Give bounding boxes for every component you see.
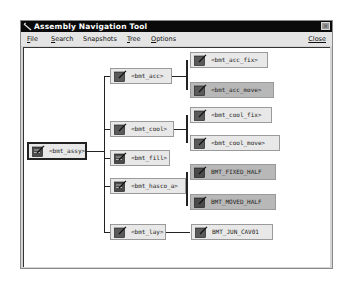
edit-part-icon	[114, 152, 127, 164]
edit-part-icon	[114, 70, 127, 82]
tree-node-bmt-moved-half[interactable]: BMT_MOVED_HALF	[190, 194, 276, 210]
tree-node-bmt-fixed-half[interactable]: BMT_FIXED_HALF	[190, 164, 276, 180]
edit-part-icon	[194, 109, 207, 121]
tree-node-bmt-acc-move[interactable]: <bmt_acc_move>	[190, 82, 274, 98]
tree-node-bmt-lay[interactable]: <bmt_lay>	[110, 224, 166, 240]
menu-snapshots[interactable]: Snapshots	[83, 32, 117, 46]
tree-node-bmt-cool[interactable]: <bmt_cool>	[110, 121, 174, 137]
edit-part-icon	[194, 84, 207, 96]
connector	[172, 76, 186, 77]
edit-part-icon	[194, 166, 207, 178]
connector	[104, 76, 105, 233]
connector	[174, 129, 186, 130]
edit-part-icon	[114, 180, 127, 192]
menu-search[interactable]: Search	[51, 32, 73, 46]
menu-tree[interactable]: Tree	[127, 32, 141, 46]
edit-part-icon	[195, 226, 208, 238]
assembly-navigation-window: Assembly Navigation Tool × File Search S…	[20, 20, 333, 269]
connector	[186, 172, 188, 206]
tree-node-bmt-fill[interactable]: <bmt_fill>	[110, 150, 170, 166]
tree-node-bmt-acc-fix[interactable]: <bmt_acc_fix>	[190, 52, 268, 68]
connector	[85, 151, 104, 152]
menu-close[interactable]: Close	[308, 32, 326, 46]
tree-node-bmt-jun-cav01[interactable]: BMT_JUN_CAV01	[191, 224, 273, 240]
edit-part-icon	[32, 145, 45, 157]
window-close-button[interactable]: ×	[321, 22, 330, 30]
tree-canvas: <bmt_assy> <bmt_acc> <bmt_cool> <bmt_fil…	[23, 47, 330, 267]
tree-node-bmt-cool-move[interactable]: <bmt_cool_move>	[190, 135, 280, 151]
tree-node-bmt-hasco-a[interactable]: <bmt_hasco_a>	[110, 178, 186, 194]
menu-file[interactable]: File	[27, 32, 38, 46]
edit-part-icon	[194, 137, 207, 149]
tree-node-label: <bmt_assy>	[49, 144, 85, 158]
window-title: Assembly Navigation Tool	[34, 21, 147, 32]
tree-node-root[interactable]: <bmt_assy>	[27, 142, 87, 160]
app-logo-icon	[23, 21, 32, 32]
edit-part-icon	[114, 123, 127, 135]
menu-options[interactable]: Options	[151, 32, 176, 46]
connector	[166, 232, 190, 233]
connector	[186, 115, 188, 143]
edit-part-icon	[194, 54, 207, 66]
tree-node-bmt-cool-fix[interactable]: <bmt_cool_fix>	[190, 107, 272, 123]
edit-part-icon	[194, 196, 207, 208]
close-icon: ×	[323, 22, 328, 29]
connector	[186, 60, 188, 90]
tree-node-bmt-acc[interactable]: <bmt_acc>	[110, 68, 172, 84]
title-bar: Assembly Navigation Tool ×	[21, 21, 332, 32]
menu-bar: File Search Snapshots Tree Options Close	[21, 32, 332, 46]
edit-part-icon	[114, 226, 127, 238]
